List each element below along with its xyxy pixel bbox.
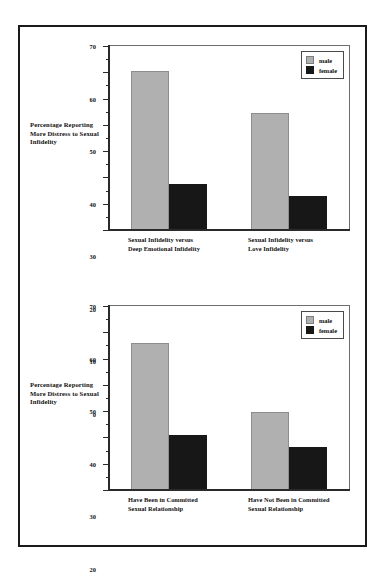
y-minor-tick-65-bottom xyxy=(106,319,109,320)
plot-area-bottom: male female 010203040506070 xyxy=(108,305,350,491)
legend-label-female: female xyxy=(319,327,337,334)
y-tick-60-bottom: 60 xyxy=(103,332,109,333)
legend-label-male: male xyxy=(319,317,332,324)
legend-swatch-female-icon xyxy=(306,66,314,74)
bar-male-group-2-bottom xyxy=(251,412,289,490)
y-tick-50-bottom: 50 xyxy=(103,359,109,360)
legend-row-male: male xyxy=(306,315,337,325)
y-minor-tick-25-bottom xyxy=(106,424,109,425)
x-axis-labels-bottom: Have Been in Committed Sexual Relationsh… xyxy=(108,496,350,530)
figure-frame: Percentage Reporting More Distress to Se… xyxy=(18,25,367,547)
y-tick-label-70-top: 70 xyxy=(90,43,96,50)
x-axis-labels-top: Sexual Infidelity versus Deep Emotional … xyxy=(108,236,350,270)
y-tick-60-top: 60 xyxy=(103,72,109,73)
chart-panel-top: Percentage Reporting More Distress to Se… xyxy=(20,29,365,282)
legend-swatch-male-icon xyxy=(306,56,314,64)
y-minor-tick-15-top xyxy=(106,191,109,192)
y-minor-tick-35-bottom xyxy=(106,398,109,399)
y-minor-tick-65-top xyxy=(106,59,109,60)
y-tick-10-top: 10 xyxy=(103,204,109,205)
y-tick-label-30-bottom: 30 xyxy=(90,513,96,520)
bar-female-group-2-bottom xyxy=(289,447,327,490)
legend-label-male: male xyxy=(319,57,332,64)
y-tick-20-bottom: 20 xyxy=(103,437,109,438)
y-axis-caption-top: Percentage Reporting More Distress to Se… xyxy=(30,121,102,147)
plot-area-top: male female 010203040506070 xyxy=(108,45,350,231)
y-tick-label-50-top: 50 xyxy=(90,148,96,155)
y-tick-50-top: 50 xyxy=(103,99,109,100)
bar-female-group-2-top xyxy=(289,196,327,230)
legend-row-female: female xyxy=(306,325,337,335)
bar-female-group-1-bottom xyxy=(169,435,207,490)
y-tick-label-20-bottom: 20 xyxy=(90,565,96,572)
y-tick-30-top: 30 xyxy=(103,151,109,152)
y-tick-40-bottom: 40 xyxy=(103,385,109,386)
x-category-label-1-bottom: Have Been in Committed Sexual Relationsh… xyxy=(128,496,198,514)
y-minor-tick-45-bottom xyxy=(106,372,109,373)
bar-male-group-2-top xyxy=(251,113,289,230)
x-category-label-2-bottom: Have Not Been in Committed Sexual Relati… xyxy=(248,496,330,514)
bar-female-group-1-top xyxy=(169,184,207,230)
y-minor-tick-15-bottom xyxy=(106,451,109,452)
x-category-label-2-top: Sexual Infidelity versus Love Infidelity xyxy=(248,236,313,254)
y-minor-tick-55-bottom xyxy=(106,345,109,346)
x-category-label-1-top: Sexual Infidelity versus Deep Emotional … xyxy=(128,236,200,254)
bar-male-group-1-top xyxy=(131,71,169,230)
legend-swatch-female-icon xyxy=(306,326,314,334)
y-tick-0-top: 0 xyxy=(103,230,109,231)
y-minor-tick-35-top xyxy=(106,138,109,139)
y-tick-label-40-top: 40 xyxy=(90,200,96,207)
y-tick-40-top: 40 xyxy=(103,125,109,126)
legend-row-male: male xyxy=(306,55,337,65)
y-tick-label-70-bottom: 70 xyxy=(90,303,96,310)
y-tick-label-60-top: 60 xyxy=(90,95,96,102)
y-tick-label-30-top: 30 xyxy=(90,253,96,260)
y-tick-10-bottom: 10 xyxy=(103,464,109,465)
legend-top: male female xyxy=(301,51,344,79)
y-tick-label-50-bottom: 50 xyxy=(90,408,96,415)
y-tick-20-top: 20 xyxy=(103,177,109,178)
y-minor-tick-45-top xyxy=(106,112,109,113)
legend-swatch-male-icon xyxy=(306,316,314,324)
y-tick-70-top: 70 xyxy=(103,46,109,47)
y-minor-tick-25-top xyxy=(106,164,109,165)
legend-label-female: female xyxy=(319,67,337,74)
legend-bottom: male female xyxy=(301,311,344,339)
y-tick-0-bottom: 0 xyxy=(103,490,109,491)
y-tick-70-bottom: 70 xyxy=(103,306,109,307)
y-tick-30-bottom: 30 xyxy=(103,411,109,412)
y-minor-tick-55-top xyxy=(106,85,109,86)
y-minor-tick-5-bottom xyxy=(106,477,109,478)
legend-row-female: female xyxy=(306,65,337,75)
y-axis-caption-bottom: Percentage Reporting More Distress to Se… xyxy=(30,381,102,407)
y-tick-label-40-bottom: 40 xyxy=(90,460,96,467)
y-minor-tick-5-top xyxy=(106,217,109,218)
chart-panel-bottom: Percentage Reporting More Distress to Se… xyxy=(20,289,365,542)
y-tick-label-60-bottom: 60 xyxy=(90,355,96,362)
bar-male-group-1-bottom xyxy=(131,343,169,490)
